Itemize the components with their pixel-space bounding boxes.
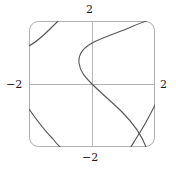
plot-container: 2 −2 −2 2 (0, 0, 176, 170)
axis-label-top: 2 (86, 4, 93, 15)
curve-top-left-branch (29, 21, 58, 46)
axis-label-left: −2 (6, 79, 22, 90)
axis-label-bottom: −2 (82, 152, 98, 163)
plot-canvas (0, 0, 176, 170)
curve-bottom-left-branch (29, 109, 60, 147)
axis-label-right: 2 (160, 79, 167, 90)
